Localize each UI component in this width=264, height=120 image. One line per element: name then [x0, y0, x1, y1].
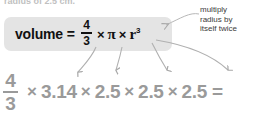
worked-multiply-sign-3: ×	[124, 82, 134, 102]
formula-equals-sign: =	[67, 26, 75, 42]
cutoff-header-label: radius of 2.5 cm.	[4, 0, 134, 5]
worked-equation: 4 3 × 3.14 × 2.5 × 2.5 × 2.5 =	[3, 68, 261, 116]
worked-multiply-sign-2: ×	[81, 82, 91, 102]
worked-multiply-sign-1: ×	[27, 82, 37, 102]
worked-radius-2: 2.5	[138, 81, 164, 103]
formula-fraction-numerator: 4	[83, 19, 90, 32]
worked-fraction-numerator: 4	[5, 71, 16, 91]
volume-formula-illustration: radius of 2.5 cm. volume = 4 3 × π × r3 …	[0, 0, 264, 120]
formula-label-volume: volume	[15, 26, 63, 42]
formula-box: volume = 4 3 × π × r3	[4, 17, 172, 51]
callout-line-3: itself twice	[200, 24, 262, 34]
worked-multiply-sign-4: ×	[168, 82, 178, 102]
formula-exponent-three: 3	[136, 26, 140, 35]
worked-fraction-denominator: 3	[5, 93, 16, 113]
callout-line-2: radius by	[200, 15, 262, 25]
cutoff-header-text: radius of 2.5 cm.	[4, 0, 134, 5]
formula-variable-r: r	[129, 26, 136, 43]
formula-expression: volume = 4 3 × π × r3	[4, 17, 172, 51]
formula-multiply-sign-2: ×	[119, 27, 127, 42]
callout-annotation: multiply radius by itself twice	[200, 5, 262, 34]
formula-fraction-four-thirds: 4 3	[81, 19, 92, 47]
formula-pi-symbol: π	[108, 26, 116, 43]
worked-radius-1: 2.5	[95, 81, 121, 103]
worked-radius-3: 2.5	[182, 81, 208, 103]
worked-fraction-four-thirds: 4 3	[3, 71, 18, 113]
worked-pi-value: 3.14	[41, 81, 77, 103]
callout-line-1: multiply	[200, 5, 262, 15]
formula-fraction-denominator: 3	[83, 34, 90, 47]
worked-equals-sign: =	[212, 81, 223, 103]
formula-multiply-sign-1: ×	[97, 27, 105, 42]
